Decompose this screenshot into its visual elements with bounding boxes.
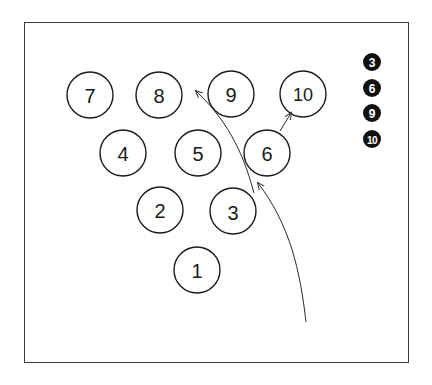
pin-6: 6 [244, 130, 290, 176]
pin-label: 10 [293, 85, 313, 105]
pin-label: 2 [154, 200, 165, 222]
pin-3: 3 [210, 188, 256, 234]
legend-badge-6: 6 [363, 79, 381, 97]
pin-label: 1 [191, 260, 202, 282]
ball-path-arrow [258, 183, 306, 322]
bowling-pin-diagram: 1 2 3 4 5 6 7 8 9 10 3 [0, 0, 432, 385]
pin-label: 4 [117, 143, 128, 165]
pin-label: 3 [227, 202, 238, 224]
pin-label: 7 [84, 85, 95, 107]
pin-label: 9 [225, 84, 236, 106]
remaining-pins-legend: 3 6 9 10 [363, 53, 381, 148]
badge-label: 9 [369, 107, 376, 121]
badge-label: 10 [367, 135, 378, 146]
pin-label: 6 [261, 143, 272, 165]
badge-label: 6 [369, 82, 376, 96]
pin-9: 9 [208, 71, 254, 117]
pin-label: 5 [192, 143, 203, 165]
legend-badge-3: 3 [363, 53, 381, 71]
pin-7: 7 [67, 72, 113, 118]
legend-badge-9: 9 [363, 104, 381, 122]
pin-6-deflection-arrow [280, 113, 291, 131]
pin-label: 8 [153, 85, 164, 107]
badge-label: 3 [369, 56, 376, 70]
legend-badge-10: 10 [363, 130, 381, 148]
pin-2: 2 [137, 187, 183, 233]
pin-4: 4 [100, 130, 146, 176]
pin-8: 8 [136, 72, 182, 118]
pin-5: 5 [175, 130, 221, 176]
pin-1: 1 [174, 247, 220, 293]
pin-10: 10 [280, 71, 326, 117]
